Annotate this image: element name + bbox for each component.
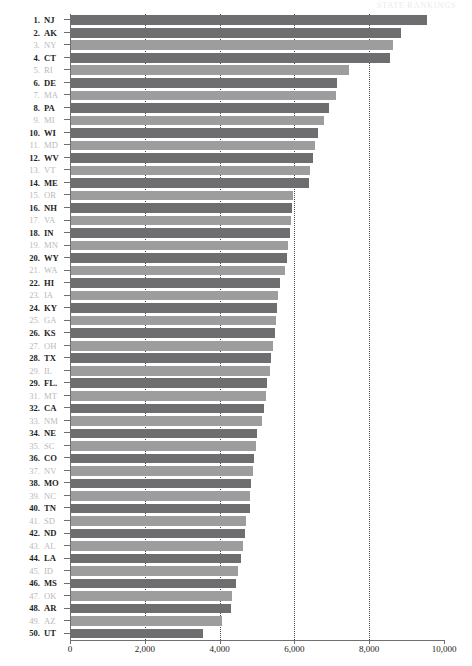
row-rank-label: 27. — [4, 340, 40, 353]
row-rank-label: 31. — [4, 390, 40, 403]
bar — [71, 504, 250, 514]
bar — [71, 353, 271, 363]
row-rank-label: 34. — [4, 427, 40, 440]
row-rank-label: 8. — [4, 102, 40, 115]
y-axis-tick — [64, 570, 70, 571]
row-rank-label: 29. — [4, 377, 40, 390]
y-axis-tick — [64, 533, 70, 534]
row-rank-label: 37. — [4, 465, 40, 478]
row-rank-label: 2. — [4, 27, 40, 40]
bar — [71, 53, 390, 63]
y-axis-tick — [64, 545, 70, 546]
bar-row: 37.NV — [0, 465, 472, 478]
row-state-label: CA — [44, 402, 66, 415]
bar — [71, 291, 278, 301]
bar — [71, 529, 245, 539]
bar — [71, 216, 291, 226]
row-state-label: SC — [44, 440, 66, 453]
x-axis-tick-2000 — [145, 640, 146, 644]
x-tick-label-8000: 8,000 — [359, 644, 379, 654]
y-axis-tick — [64, 57, 70, 58]
y-axis-tick — [64, 507, 70, 508]
row-rank-label: 10. — [4, 127, 40, 140]
bar — [71, 429, 257, 439]
bar — [71, 616, 222, 626]
row-state-label: KS — [44, 327, 66, 340]
y-axis-tick — [64, 69, 70, 70]
x-axis-tick-6000 — [294, 640, 295, 644]
y-axis-tick — [64, 245, 70, 246]
bar-row: 49.AZ — [0, 615, 472, 628]
row-rank-label: 46. — [4, 577, 40, 590]
row-state-label: LA — [44, 552, 66, 565]
bar-row: 44.LA — [0, 552, 472, 565]
bar-row: 6.DE — [0, 77, 472, 90]
y-axis-tick — [64, 307, 70, 308]
y-axis-tick — [64, 495, 70, 496]
row-state-label: ND — [44, 527, 66, 540]
row-state-label: CT — [44, 52, 66, 65]
bar-row: 33.NM — [0, 415, 472, 428]
bar — [71, 579, 236, 589]
x-tick-label-4000: 4,000 — [209, 644, 229, 654]
row-state-label: IA — [44, 289, 66, 302]
bar-row: 21.WA — [0, 264, 472, 277]
row-state-label: MO — [44, 477, 66, 490]
row-state-label: TN — [44, 502, 66, 515]
y-axis-tick — [64, 107, 70, 108]
bar — [71, 454, 254, 464]
bar-row: 24.KY — [0, 302, 472, 315]
bar-row: 9.MI — [0, 114, 472, 127]
row-state-label: VT — [44, 164, 66, 177]
bar-row: 11.MD — [0, 139, 472, 152]
bar — [71, 191, 293, 201]
row-rank-label: 19. — [4, 239, 40, 252]
row-state-label: WV — [44, 152, 66, 165]
bar-row: 40.TN — [0, 502, 472, 515]
bar-row: 23.IA — [0, 289, 472, 302]
x-tick-label-6000: 6,000 — [284, 644, 304, 654]
bar — [71, 141, 315, 151]
bar — [71, 78, 337, 88]
row-rank-label: 24. — [4, 302, 40, 315]
y-axis-tick — [64, 608, 70, 609]
row-rank-label: 29. — [4, 365, 40, 378]
row-rank-label: 40. — [4, 502, 40, 515]
row-state-label: AL — [44, 540, 66, 553]
x-axis-tick-labels: 02,0004,0006,0008,00010,000 — [0, 644, 472, 662]
bar — [71, 629, 203, 639]
page-header-faint: STATE RANKINGS — [0, 0, 472, 10]
row-rank-label: 32. — [4, 402, 40, 415]
row-state-label: OK — [44, 590, 66, 603]
y-axis-tick — [64, 19, 70, 20]
row-state-label: GA — [44, 314, 66, 327]
row-rank-label: 41. — [4, 515, 40, 528]
bar — [71, 328, 275, 338]
bar-row: 39.NC — [0, 490, 472, 503]
y-axis-tick — [64, 470, 70, 471]
bar — [71, 479, 251, 489]
row-state-label: MA — [44, 89, 66, 102]
bar-row: 20.WY — [0, 252, 472, 265]
y-axis-tick — [64, 332, 70, 333]
bar — [71, 391, 266, 401]
row-rank-label: 3. — [4, 39, 40, 52]
bar — [71, 116, 324, 126]
bar-row: 46.MS — [0, 577, 472, 590]
y-axis-tick — [64, 445, 70, 446]
row-state-label: ID — [44, 565, 66, 578]
row-rank-label: 47. — [4, 590, 40, 603]
row-state-label: MD — [44, 139, 66, 152]
bar — [71, 65, 349, 75]
bar — [71, 341, 273, 351]
row-state-label: MI — [44, 114, 66, 127]
bar — [71, 491, 250, 501]
bar-row: 31.MT — [0, 390, 472, 403]
row-state-label: RI — [44, 64, 66, 77]
row-rank-label: 39. — [4, 490, 40, 503]
row-rank-label: 38. — [4, 477, 40, 490]
x-tick-label-10000: 10,000 — [432, 644, 457, 654]
y-axis-tick — [64, 207, 70, 208]
bar-row: 10.WI — [0, 127, 472, 140]
row-rank-label: 15. — [4, 189, 40, 202]
